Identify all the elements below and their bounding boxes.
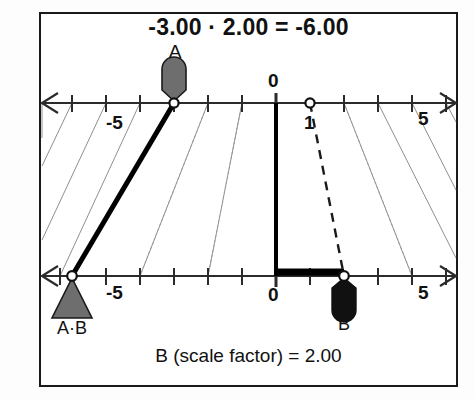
top-zero-label: 0 — [268, 70, 279, 92]
guide-line — [344, 103, 412, 276]
scale-factor-caption: B (scale factor) = 2.00 — [39, 345, 458, 367]
number-line-multiplication-figure: -3.00 · 2.00 = -6.00 — [0, 0, 475, 399]
top-minus-five-label: -5 — [106, 112, 123, 134]
bottom-minus-five-label: -5 — [106, 282, 123, 304]
guide-lines-group — [42, 103, 456, 276]
marker-ab-handle-icon — [67, 271, 77, 281]
top-one-label: 1 — [304, 112, 315, 134]
number-line-artwork — [0, 0, 475, 399]
guide-line — [42, 103, 106, 240]
bottom-five-label: 5 — [418, 282, 429, 304]
marker-a-tag-icon[interactable] — [162, 57, 186, 101]
marker-b-label: B — [332, 314, 356, 335]
marker-unit-handle-icon[interactable] — [305, 98, 314, 107]
guide-line — [60, 103, 140, 276]
marker-ab-label: A·B — [48, 318, 96, 339]
guide-line — [140, 103, 208, 276]
top-number-line — [42, 93, 456, 114]
marker-b-handle-icon[interactable] — [339, 271, 349, 281]
a-mapping-line — [72, 103, 174, 276]
marker-ab-triangle-icon — [52, 278, 92, 318]
unit-mapping-line — [310, 103, 344, 276]
top-five-label: 5 — [418, 108, 429, 130]
marker-a-label: A — [164, 41, 186, 63]
bottom-zero-label: 0 — [268, 284, 279, 306]
marker-a[interactable] — [162, 57, 186, 108]
marker-ab — [52, 271, 92, 318]
guide-line — [378, 103, 456, 258]
bottom-number-line — [42, 266, 456, 287]
marker-a-handle-icon[interactable] — [169, 98, 178, 107]
